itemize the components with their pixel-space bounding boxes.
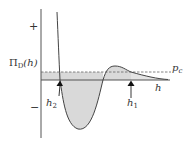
- h2-label: h2: [46, 97, 57, 110]
- plus-sign: +: [29, 20, 38, 33]
- shaded-area-upper-lobe: [103, 66, 131, 80]
- x-axis-label: h: [155, 82, 161, 93]
- pc-label: pc: [172, 62, 182, 75]
- h1-marker-arrow: [128, 81, 135, 99]
- y-axis-label: ΠD(h): [9, 57, 38, 70]
- shaded-area-left-band: [41, 72, 60, 80]
- h1-label: h1: [127, 97, 138, 110]
- minus-sign: −: [30, 101, 39, 114]
- disjoining-pressure-diagram: + − ΠD(h) pc h h2 h1: [0, 0, 187, 145]
